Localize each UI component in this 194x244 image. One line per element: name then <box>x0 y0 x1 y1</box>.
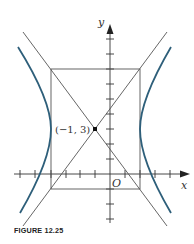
figure: y x O (−1, 3) FIGURE 12.25 <box>0 0 194 244</box>
x-axis-label: x <box>181 179 188 192</box>
center-point-label: (−1, 3) <box>55 124 90 135</box>
hyperbola-diagram: y x O (−1, 3) <box>0 0 194 244</box>
hyperbola-left-branch <box>18 47 51 213</box>
figure-caption: FIGURE 12.25 <box>14 226 63 235</box>
y-axis-label: y <box>97 16 105 29</box>
hyperbola-right-branch <box>140 47 171 213</box>
center-point <box>93 127 97 131</box>
y-axis <box>106 24 114 223</box>
origin-label: O <box>112 177 121 190</box>
